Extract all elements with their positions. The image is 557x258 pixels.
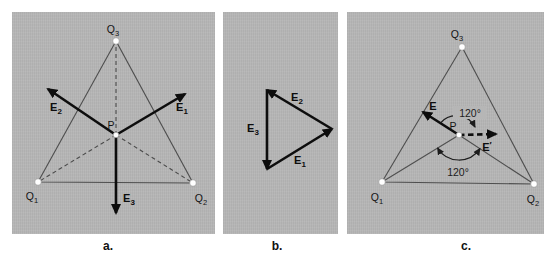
charge-q1-dot	[379, 179, 386, 186]
panel-b: E2 E3 E1	[223, 12, 338, 234]
dashed-line-p-q1	[38, 135, 116, 182]
dashed-line-p-q2	[116, 135, 193, 183]
charge-q1-label: Q1	[371, 191, 383, 206]
charge-q2-label: Q2	[527, 193, 539, 208]
charge-q1-dot	[35, 179, 42, 186]
vector-e3-label: E3	[247, 122, 259, 137]
charge-q1-label: Q1	[26, 190, 38, 205]
angle-lower-label: 120°	[447, 166, 469, 178]
charge-q3-label: Q3	[451, 28, 463, 43]
vector-e2-label: E2	[291, 91, 303, 106]
point-p-dot	[113, 132, 119, 138]
caption-c: c.	[451, 239, 481, 253]
panel-c: Q3 Q1 Q2 P E E′ 120° 120°	[347, 12, 544, 234]
angle-arc-lower	[438, 148, 480, 160]
vector-e1-arrow	[116, 94, 185, 135]
vector-e3-label: E3	[123, 192, 135, 207]
physics-figure: Q3 Q1 Q2 P E2 E1 E3 E2 E3 E1	[0, 0, 557, 258]
panel-a-diagram: Q3 Q1 Q2 P E2 E1 E3	[12, 12, 215, 234]
point-p-dot	[456, 132, 462, 138]
vector-e1-label: E1	[294, 154, 306, 169]
vector-e-label: E	[429, 100, 436, 112]
caption-b: b.	[262, 239, 292, 253]
charge-q3-dot	[459, 44, 466, 51]
panel-b-diagram: E2 E3 E1	[223, 12, 338, 234]
vector-e1-label: E1	[176, 101, 188, 116]
panel-c-diagram: Q3 Q1 Q2 P E E′ 120° 120°	[347, 12, 544, 234]
vector-e2-label: E2	[50, 101, 62, 116]
caption-a: a.	[93, 239, 123, 253]
panel-a: Q3 Q1 Q2 P E2 E1 E3	[12, 12, 215, 234]
charge-q3-label: Q3	[107, 23, 119, 38]
charge-q2-dot	[531, 181, 538, 188]
point-p-label: P	[107, 119, 114, 131]
vector-e2-arrow	[267, 90, 332, 129]
charge-q2-dot	[190, 180, 197, 187]
vector-e-prime-arrow	[459, 134, 496, 135]
charge-q2-label: Q2	[195, 192, 207, 207]
charge-q3-dot	[113, 38, 120, 45]
vector-e-prime-label: E′	[482, 140, 492, 153]
angle-upper-label: 120°	[459, 107, 481, 119]
line-p-q2	[459, 135, 534, 184]
point-p-label: P	[449, 120, 456, 132]
